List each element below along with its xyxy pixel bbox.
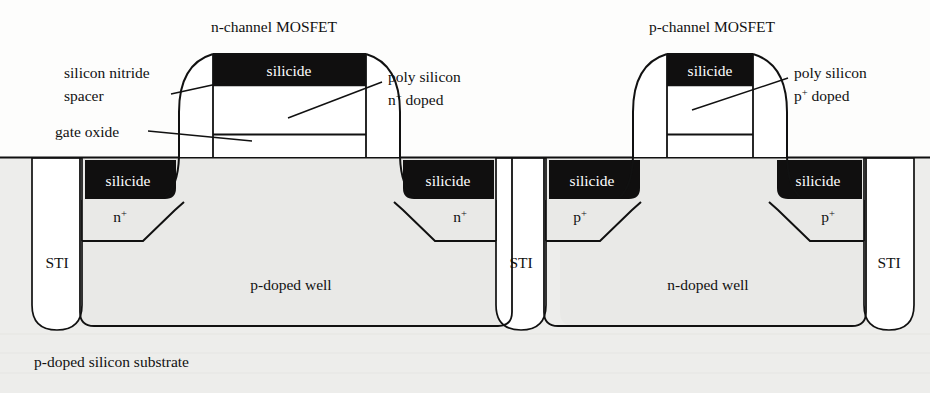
callout-spacer-line1: silicon nitride — [64, 64, 150, 81]
poly-gate-right-fill — [667, 85, 753, 134]
title-p-channel: p-channel MOSFET — [649, 18, 776, 35]
label-substrate: p-doped silicon substrate — [34, 353, 189, 370]
label-gate-silicide-right: silicide — [688, 62, 733, 79]
callout-spacer-line2: spacer — [64, 87, 104, 104]
label-nplus-left-sup: + — [121, 208, 127, 219]
gate-oxide-band-right — [667, 136, 753, 157]
label-gate-silicide-left: silicide — [267, 62, 312, 79]
callout-poly-n-tail: doped — [402, 91, 444, 108]
label-sti-middle: STI — [509, 254, 532, 271]
callout-poly-n-line1: poly silicon — [388, 68, 461, 85]
label-sd-silicide-3: silicide — [570, 172, 615, 189]
label-nplus-right-sup: + — [461, 208, 467, 219]
label-sd-silicide-2: silicide — [426, 172, 471, 189]
sti-trench-right — [864, 158, 914, 330]
label-sd-silicide-4: silicide — [796, 172, 841, 189]
callout-poly-p-tail: doped — [808, 87, 850, 104]
label-pplus-right-sup: + — [829, 208, 835, 219]
callout-poly-p-line1: poly silicon — [794, 64, 867, 81]
label-pplus-left-sup: + — [581, 208, 587, 219]
figure-canvas: n-channel MOSFET p-channel MOSFET silico… — [0, 0, 930, 393]
label-sti-left: STI — [45, 254, 68, 271]
title-n-channel: n-channel MOSFET — [211, 18, 338, 35]
poly-gate-left-fill — [213, 85, 366, 134]
label-sti-right: STI — [877, 254, 900, 271]
cmos-cross-section-svg: n-channel MOSFET p-channel MOSFET silico… — [0, 0, 930, 393]
sti-trench-left — [32, 158, 82, 330]
label-n-well: n-doped well — [667, 276, 748, 293]
label-p-well: p-doped well — [250, 276, 331, 293]
sti-trench-middle — [496, 158, 546, 330]
label-sd-silicide-1: silicide — [106, 172, 151, 189]
callout-gate-oxide: gate oxide — [55, 123, 119, 140]
